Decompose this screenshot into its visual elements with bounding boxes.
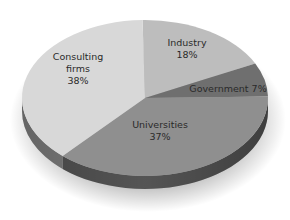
slice-label: Universities (132, 119, 188, 130)
slice-label: Government 7% (189, 83, 266, 94)
slice-label: firms (66, 63, 90, 74)
pie-chart: Industry18%Government 7%Universities37%C… (0, 0, 290, 220)
slice-label: 18% (176, 49, 197, 60)
slice-label: Industry (167, 37, 206, 48)
slice-label: 37% (149, 131, 170, 142)
slice-label: 38% (67, 75, 88, 86)
slice-label: Consulting (53, 51, 104, 62)
pie-slices (22, 20, 268, 176)
